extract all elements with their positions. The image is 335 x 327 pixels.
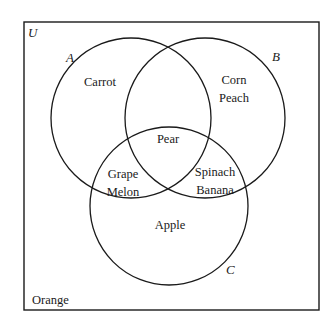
region-ac-item: Grape <box>108 167 139 181</box>
region-b-only-item: Peach <box>219 91 250 105</box>
circle-c <box>90 127 248 285</box>
set-a-label: A <box>65 50 74 65</box>
region-outside-item: Orange <box>32 293 69 307</box>
region-c-only-item: Apple <box>155 218 186 232</box>
region-a-only-item: Carrot <box>84 75 116 89</box>
venn-diagram: U A B C Carrot Corn Peach Pear Grape Mel… <box>0 0 335 327</box>
region-bc-item: Banana <box>196 183 234 197</box>
universe-rectangle <box>24 22 319 310</box>
region-abc-item: Pear <box>157 132 180 146</box>
universe-label: U <box>28 25 39 40</box>
set-b-label: B <box>272 49 280 64</box>
region-b-only-item: Corn <box>222 73 248 87</box>
region-ac-item: Melon <box>107 185 140 199</box>
region-bc-item: Spinach <box>195 165 236 179</box>
set-c-label: C <box>226 262 235 277</box>
